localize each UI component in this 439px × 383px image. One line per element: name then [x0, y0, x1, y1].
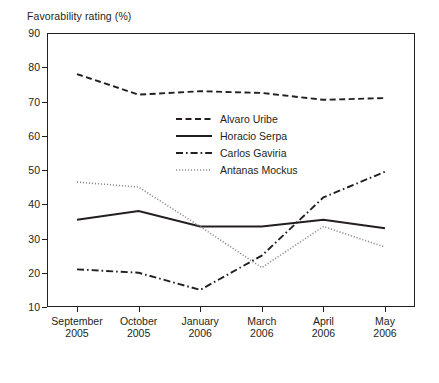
- series-lines-layer: [0, 0, 439, 383]
- legend-line-swatch: [176, 164, 212, 176]
- favorability-line-chart: Favorability rating (%) 9080706050403020…: [0, 0, 439, 383]
- legend-item-label: Alvaro Uribe: [220, 113, 278, 125]
- legend-item-label: Antanas Mockus: [220, 164, 298, 176]
- legend-item: Antanas Mockus: [176, 161, 326, 178]
- series-line-alvaro-uribe: [77, 74, 385, 100]
- legend-item-label: Horacio Serpa: [220, 130, 287, 142]
- legend-item-label: Carlos Gaviria: [220, 147, 287, 159]
- legend-line-swatch: [176, 147, 212, 159]
- legend-item: Horacio Serpa: [176, 127, 326, 144]
- legend-item: Alvaro Uribe: [176, 110, 326, 127]
- series-line-carlos-gaviria: [77, 172, 385, 290]
- legend-line-swatch: [176, 130, 212, 142]
- legend-line-swatch: [176, 113, 212, 125]
- legend-item: Carlos Gaviria: [176, 144, 326, 161]
- series-line-antanas-mockus: [77, 182, 385, 268]
- chart-legend: Alvaro UribeHoracio SerpaCarlos GaviriaA…: [176, 110, 326, 178]
- series-line-horacio-serpa: [77, 211, 385, 228]
